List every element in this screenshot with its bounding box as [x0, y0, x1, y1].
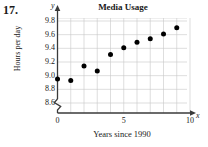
data-point	[82, 64, 87, 69]
scatter-plot	[0, 0, 208, 147]
figure-container: 17. Media Usage Hours per day Years sinc…	[0, 0, 208, 147]
data-point	[95, 68, 100, 73]
data-point	[161, 31, 166, 36]
gridlines	[58, 18, 191, 113]
data-point	[68, 78, 73, 83]
data-point	[55, 77, 60, 82]
data-point	[135, 40, 140, 45]
data-point	[121, 45, 126, 50]
data-points	[55, 25, 179, 83]
data-point	[108, 52, 113, 57]
axes	[54, 5, 196, 116]
data-point	[148, 36, 153, 41]
data-point	[174, 25, 179, 30]
